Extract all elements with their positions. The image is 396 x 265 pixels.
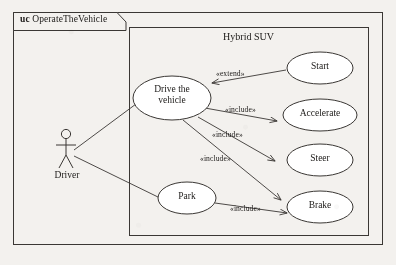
use-case-accelerate	[283, 99, 357, 131]
include-drive-accelerate	[205, 108, 277, 121]
include-drive-steer	[198, 117, 275, 161]
association-driver-drive	[74, 104, 136, 150]
use-case-brake	[287, 191, 353, 223]
actor-leg-left	[59, 155, 66, 168]
use-case-drive-the-vehicle	[133, 76, 211, 120]
diagram-vector-layer	[0, 0, 396, 265]
frame-name-tab	[14, 13, 127, 31]
actor-head	[61, 129, 70, 138]
association-driver-park	[74, 156, 160, 198]
use-case-diagram-canvas: uc OperateTheVehicle Hybrid SUV Drive th…	[0, 0, 396, 265]
use-case-start	[287, 52, 353, 84]
actor-driver[interactable]	[56, 129, 76, 168]
include-park-brake	[215, 203, 287, 213]
use-case-steer	[287, 144, 353, 176]
extend-start-drive	[212, 70, 286, 83]
use-case-park	[158, 182, 216, 214]
actor-leg-right	[66, 155, 73, 168]
